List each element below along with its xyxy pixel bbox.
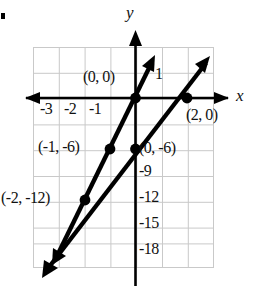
x-tick-label-neg3: -3 (40, 101, 52, 117)
x-tick-label-neg2: -2 (64, 101, 76, 117)
line-y-equals-3x-minus-6 (42, 56, 210, 278)
x-tick-label-neg1: -1 (89, 101, 101, 117)
y-tick-label-neg9: -9 (139, 163, 151, 179)
point-label-0-neg6: (0, -6) (139, 140, 175, 156)
y-tick-label-neg18: -18 (139, 241, 159, 257)
point-label-neg1-neg6: (-1, -6) (38, 139, 79, 155)
point-marker-neg2-neg12 (80, 195, 91, 206)
y-tick-label-neg12: -12 (139, 189, 159, 205)
point-label-2-0: (2, 0) (186, 107, 218, 123)
point-label-neg2-neg12: (-2, -12) (1, 190, 50, 206)
point-marker-2-0 (182, 93, 193, 104)
line-y-equals-6x (52, 55, 155, 265)
point-label-0-0: (0, 0) (83, 69, 115, 85)
y-axis-label: y (126, 4, 134, 21)
grid-lines (34, 47, 214, 268)
graph-figure: y x -3 -2 -1 1 -9 -12 -15 -18 (0, 0) (2,… (0, 0, 254, 289)
point-marker-neg1-neg6 (105, 144, 116, 155)
point-marker-0-0 (130, 93, 141, 104)
y-tick-label-neg15: -15 (139, 215, 159, 231)
x-axis-label: x (236, 87, 244, 104)
x-axis (25, 92, 229, 104)
y-tick-label-1: 1 (155, 66, 163, 82)
